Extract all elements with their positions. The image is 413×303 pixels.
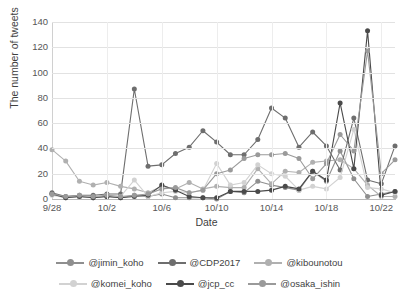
data-point bbox=[310, 160, 315, 165]
data-point bbox=[338, 175, 343, 180]
data-point bbox=[365, 28, 370, 33]
data-point bbox=[228, 152, 233, 157]
x-tick-label: 10/6 bbox=[142, 203, 182, 213]
data-point bbox=[228, 189, 233, 194]
legend-label: @jcp_cc bbox=[198, 278, 235, 289]
vertical-gridline bbox=[162, 22, 163, 199]
data-point bbox=[242, 180, 247, 185]
data-point bbox=[77, 193, 82, 198]
data-point bbox=[365, 185, 370, 190]
data-point bbox=[255, 137, 260, 142]
legend-marker-icon bbox=[56, 258, 84, 268]
data-point bbox=[173, 185, 178, 190]
legend-item[interactable]: @jcp_cc bbox=[166, 278, 249, 289]
data-point bbox=[351, 116, 356, 121]
x-axis-line bbox=[52, 199, 396, 200]
horizontal-gridline bbox=[52, 148, 395, 149]
legend-marker-icon bbox=[59, 279, 87, 289]
y-tick-label: 140 bbox=[2, 17, 48, 27]
y-tick-label: 80 bbox=[2, 93, 48, 103]
line-chart: The number of tweets 020406080100120140 … bbox=[0, 0, 413, 303]
legend-label: @osaka_ishin bbox=[280, 278, 340, 289]
data-point bbox=[50, 191, 55, 196]
legend-item[interactable]: @CDP2017 bbox=[158, 257, 255, 268]
horizontal-gridline bbox=[52, 47, 395, 48]
data-point bbox=[118, 184, 123, 189]
data-point bbox=[91, 194, 96, 199]
data-point bbox=[255, 189, 260, 194]
x-tick-label: 10/22 bbox=[361, 203, 401, 213]
data-point bbox=[228, 183, 233, 188]
data-point bbox=[132, 193, 137, 198]
data-point bbox=[310, 176, 315, 181]
y-tick-label: 60 bbox=[2, 118, 48, 128]
data-point bbox=[351, 166, 356, 171]
vertical-gridline bbox=[107, 22, 108, 199]
data-point bbox=[283, 116, 288, 121]
legend-marker-icon bbox=[248, 279, 276, 289]
data-point bbox=[296, 186, 301, 191]
data-point bbox=[255, 162, 260, 167]
legend-item[interactable]: @komei_koho bbox=[59, 278, 166, 289]
data-point bbox=[365, 49, 370, 54]
x-tick-label: 10/10 bbox=[197, 203, 237, 213]
plot-area bbox=[52, 22, 395, 199]
legend-label: @komei_koho bbox=[91, 278, 152, 289]
data-point bbox=[200, 195, 205, 200]
data-point bbox=[310, 184, 315, 189]
legend-item[interactable]: @jimin_koho bbox=[56, 257, 157, 268]
data-point bbox=[283, 151, 288, 156]
data-point bbox=[255, 152, 260, 157]
data-point bbox=[132, 186, 137, 191]
data-point bbox=[63, 194, 68, 199]
legend-item[interactable]: @osaka_ishin bbox=[248, 278, 354, 289]
legend-row: @komei_koho@jcp_cc@osaka_ishin bbox=[0, 273, 413, 294]
y-tick-label: 100 bbox=[2, 68, 48, 78]
data-point bbox=[173, 195, 178, 200]
y-tick-label: 120 bbox=[2, 42, 48, 52]
horizontal-gridline bbox=[52, 73, 395, 74]
legend-item[interactable]: @kibounotou bbox=[254, 257, 356, 268]
legend-label: @CDP2017 bbox=[190, 257, 241, 268]
y-tick-label: 20 bbox=[2, 169, 48, 179]
data-point bbox=[365, 194, 370, 199]
data-point bbox=[338, 157, 343, 162]
data-point bbox=[242, 156, 247, 161]
x-axis-title: Date bbox=[0, 216, 413, 228]
series-layer bbox=[52, 22, 395, 199]
x-tick-label: 9/28 bbox=[32, 203, 72, 213]
data-point bbox=[132, 87, 137, 92]
vertical-gridline bbox=[326, 22, 327, 199]
legend-marker-icon bbox=[158, 258, 186, 268]
data-point bbox=[283, 184, 288, 189]
data-point bbox=[173, 151, 178, 156]
legend-marker-icon bbox=[166, 279, 194, 289]
data-point bbox=[338, 100, 343, 105]
data-point bbox=[310, 129, 315, 134]
horizontal-gridline bbox=[52, 22, 395, 23]
data-point bbox=[77, 179, 82, 184]
data-point bbox=[187, 190, 192, 195]
series-line bbox=[52, 89, 395, 196]
series--cdp2017 bbox=[50, 87, 398, 199]
horizontal-gridline bbox=[52, 123, 395, 124]
data-point bbox=[146, 164, 151, 169]
data-point bbox=[351, 127, 356, 132]
legend-row: @jimin_koho@CDP2017@kibounotou bbox=[0, 252, 413, 273]
data-point bbox=[187, 180, 192, 185]
x-tick-label: 10/18 bbox=[306, 203, 346, 213]
data-point bbox=[146, 191, 151, 196]
data-point bbox=[242, 189, 247, 194]
legend-label: @kibounotou bbox=[286, 257, 342, 268]
horizontal-gridline bbox=[52, 98, 395, 99]
x-tick-label: 10/14 bbox=[252, 203, 292, 213]
data-point bbox=[228, 167, 233, 172]
data-point bbox=[91, 183, 96, 188]
x-axis-tick-labels: 9/2810/210/610/1010/1410/1810/22 bbox=[0, 203, 413, 217]
vertical-gridline bbox=[217, 22, 218, 199]
y-tick-label: 40 bbox=[2, 143, 48, 153]
chart-legend: @jimin_koho@CDP2017@kibounotou@komei_koh… bbox=[0, 252, 413, 294]
data-point bbox=[393, 189, 398, 194]
data-point bbox=[118, 194, 123, 199]
legend-marker-icon bbox=[254, 258, 282, 268]
